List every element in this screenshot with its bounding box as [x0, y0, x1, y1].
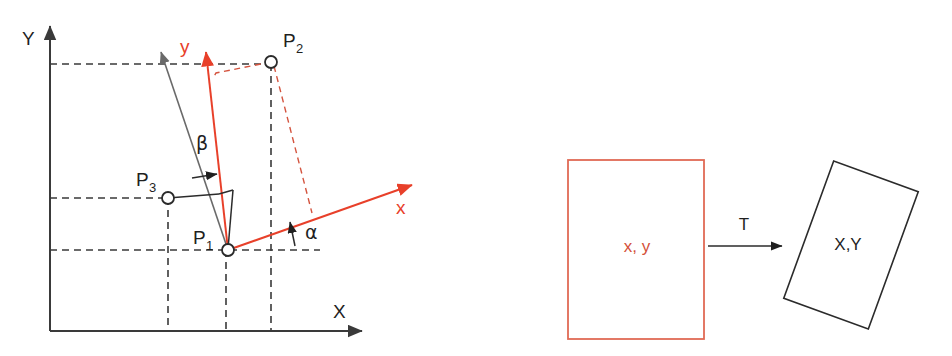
coordinate-transformation-figure: Y X x y: [0, 0, 952, 356]
beta-arrow: [192, 174, 217, 178]
p2-projection-to-local-x: [274, 66, 312, 213]
global-axes: Y X: [22, 26, 362, 331]
global-x-axis-label: X: [333, 301, 346, 322]
local-y-axis: [206, 52, 228, 250]
source-frame-label: x, y: [624, 237, 651, 256]
local-y-axis-label: y: [180, 36, 190, 57]
point-p2-subscript: 2: [296, 41, 303, 56]
point-p2-marker[interactable]: [265, 56, 277, 68]
projection-guides: [50, 64, 320, 331]
local-axes: x y: [180, 36, 412, 250]
point-p3-label: P: [136, 169, 149, 190]
point-p1-subscript: 1: [206, 238, 213, 253]
local-x-axis-label: x: [396, 197, 406, 218]
alpha-label: α: [305, 221, 318, 243]
angle-alpha-indicator: α: [290, 221, 318, 246]
global-y-axis-label: Y: [22, 28, 35, 49]
connector-p3-to-reference: [168, 194, 219, 198]
point-p1-marker[interactable]: [222, 244, 234, 256]
point-p1-label: P: [193, 227, 206, 248]
target-frame-label: X,Y: [834, 235, 861, 254]
point-p3[interactable]: P 3: [136, 169, 174, 204]
point-p2-label: P: [283, 30, 296, 51]
local-x-axis: [228, 185, 412, 250]
beta-label: β: [196, 132, 208, 154]
left-panel: Y X x y: [22, 26, 412, 331]
connector-p1-to-local-frame: [228, 190, 233, 249]
figure-root: Y X x y: [0, 0, 952, 356]
transform-label: T: [739, 215, 749, 234]
right-panel: x, y T X,Y: [568, 160, 918, 339]
point-p2[interactable]: P 2: [265, 30, 303, 68]
point-p3-marker[interactable]: [162, 192, 174, 204]
point-p3-subscript: 3: [149, 180, 156, 195]
p2-local-projections: [213, 62, 312, 213]
